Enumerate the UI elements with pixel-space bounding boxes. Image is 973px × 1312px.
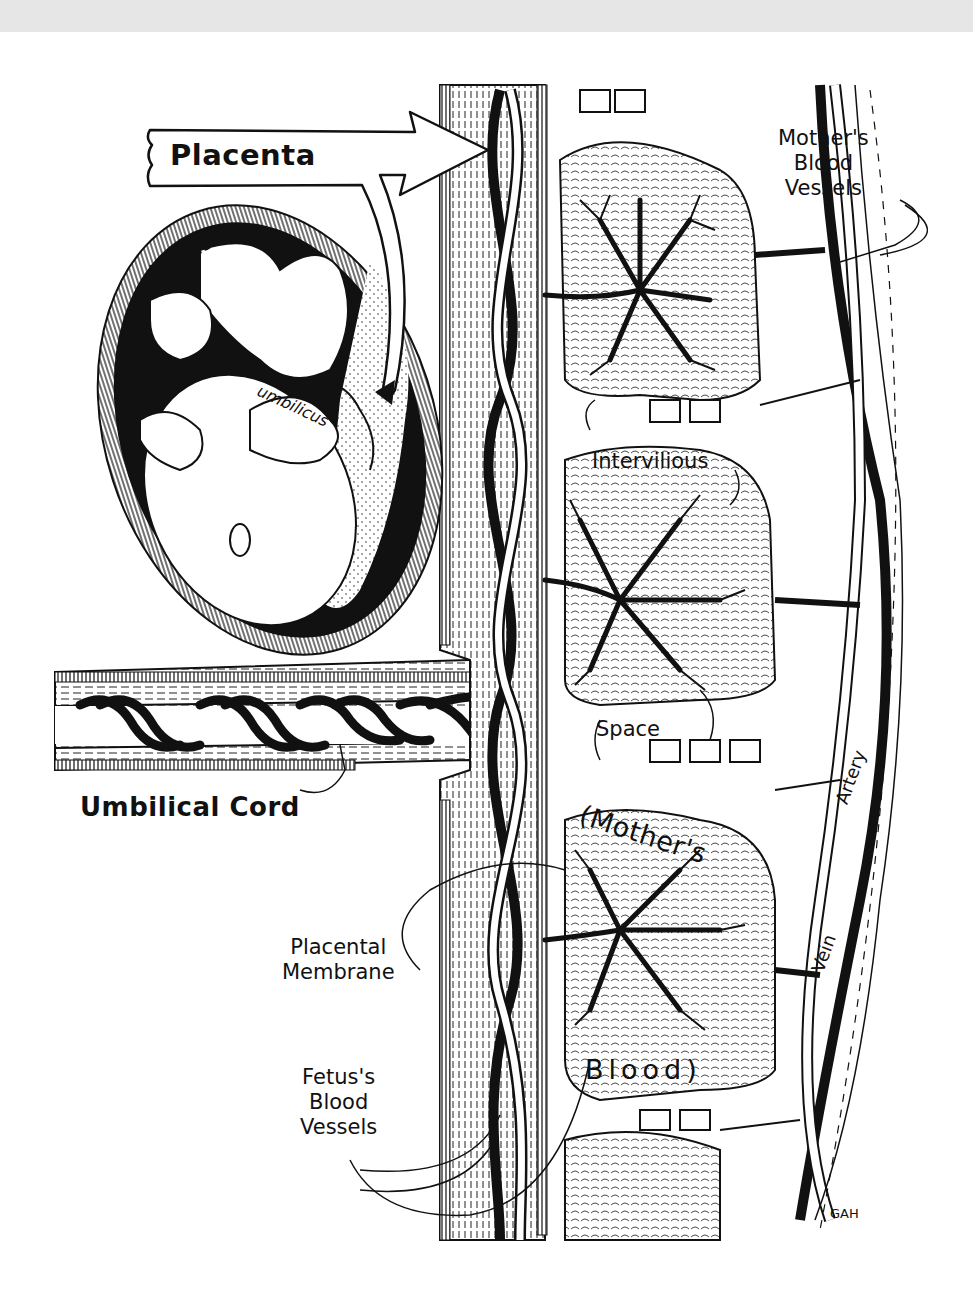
artist-signature: GAH [830, 1207, 859, 1221]
label-placenta: Placenta [170, 140, 316, 172]
label-mothers-blood-vessels: Mother's Blood Vessels [778, 126, 869, 201]
label-umbilical-cord: Umbilical Cord [80, 793, 300, 822]
label-line: Vessels [778, 176, 869, 201]
label-line: Blood [300, 1090, 377, 1115]
label-line: Mother's [778, 126, 869, 151]
label-placental-membrane: Placental Membrane [282, 935, 395, 985]
label-space: Space [596, 718, 660, 741]
label-line: Membrane [282, 960, 395, 985]
uterus [42, 160, 498, 699]
label-line: Vessels [300, 1115, 377, 1140]
label-line: Fetus's [300, 1065, 377, 1090]
label-intervilious: Intervilious [592, 450, 708, 473]
label-blood: Blood) [585, 1055, 702, 1085]
label-fetus-blood-vessels: Fetus's Blood Vessels [300, 1065, 377, 1140]
label-line: Placental [282, 935, 395, 960]
label-line: Blood [778, 151, 869, 176]
